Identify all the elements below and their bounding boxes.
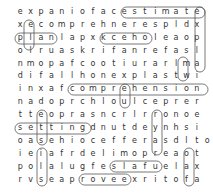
word-highlights [0, 0, 213, 193]
